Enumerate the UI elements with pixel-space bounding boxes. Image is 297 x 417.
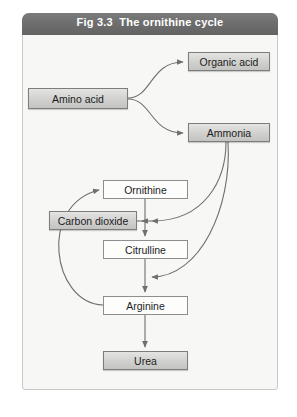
node-carbon-dioxide-label: Carbon dioxide [58, 215, 129, 227]
node-arginine-label: Arginine [126, 300, 165, 312]
node-ammonia-label: Ammonia [207, 127, 251, 139]
node-organic-acid: Organic acid [188, 52, 270, 71]
node-citrulline: Citrulline [103, 240, 188, 259]
node-organic-acid-label: Organic acid [200, 56, 259, 68]
node-amino-acid-label: Amino acid [52, 93, 104, 105]
node-ornithine: Ornithine [103, 180, 188, 199]
node-carbon-dioxide: Carbon dioxide [49, 211, 137, 230]
node-ornithine-label: Ornithine [124, 184, 167, 196]
node-amino-acid: Amino acid [28, 88, 128, 109]
node-urea: Urea [103, 351, 188, 370]
node-arginine: Arginine [103, 296, 188, 315]
node-urea-label: Urea [134, 355, 157, 367]
figure-title-bar: Fig 3.3 The ornithine cycle [22, 13, 278, 35]
figure-title: Fig 3.3 The ornithine cycle [22, 16, 278, 28]
node-ammonia: Ammonia [188, 123, 270, 142]
figure-root: Fig 3.3 The ornithine cycle [0, 0, 297, 417]
node-citrulline-label: Citrulline [125, 244, 166, 256]
